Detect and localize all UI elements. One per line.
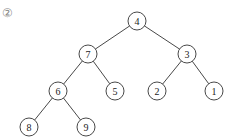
tree-node-3: 3 — [178, 45, 196, 63]
tree-edge — [163, 61, 182, 84]
tree-node-2: 2 — [148, 82, 166, 100]
tree-node-4: 4 — [128, 12, 146, 30]
tree-nodes: 473652189 — [20, 12, 223, 136]
tree-edge — [64, 98, 81, 120]
tree-node-9: 9 — [77, 118, 95, 136]
node-value: 7 — [86, 49, 91, 60]
tree-edge — [95, 26, 129, 49]
tree-edge — [192, 61, 208, 83]
tree-node-5: 5 — [106, 82, 124, 100]
tree-node-1: 1 — [205, 82, 223, 100]
node-value: 2 — [155, 86, 160, 97]
node-value: 4 — [135, 16, 140, 27]
tree-node-6: 6 — [49, 82, 67, 100]
tree-edge — [35, 98, 53, 120]
tree-edge — [93, 61, 109, 83]
tree-node-7: 7 — [79, 45, 97, 63]
node-value: 5 — [113, 86, 118, 97]
node-value: 3 — [185, 49, 190, 60]
tree-edge — [64, 61, 83, 84]
node-value: 8 — [27, 122, 32, 133]
node-value: 1 — [212, 86, 217, 97]
node-value: 9 — [84, 122, 89, 133]
binary-tree-diagram: 473652189 — [0, 0, 225, 138]
tree-edge — [145, 26, 180, 49]
tree-node-8: 8 — [20, 118, 38, 136]
tree-edges — [35, 26, 209, 120]
node-value: 6 — [56, 86, 61, 97]
